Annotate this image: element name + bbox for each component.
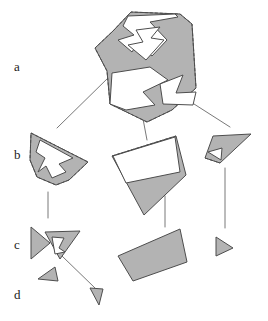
- row-label-c: c: [14, 238, 20, 251]
- level-c-group: [31, 227, 233, 281]
- connector-c-to-d: [62, 256, 95, 288]
- connector-a-to-b-left: [57, 77, 109, 128]
- level-d-sliver-triangle: [90, 288, 103, 305]
- level-b-group: [30, 133, 251, 215]
- row-label-d: d: [14, 288, 21, 301]
- level-a-group: [95, 12, 196, 122]
- row-label-a: a: [14, 60, 20, 73]
- level-b-right-triangle-piece: [205, 134, 251, 163]
- decomposition-figure: [0, 0, 268, 321]
- level-d-group: [90, 288, 103, 305]
- row-label-b: b: [14, 148, 21, 161]
- level-c-middle-quad: [118, 229, 187, 281]
- level-c-left-inner-triangle: [45, 231, 80, 259]
- level-c-right-triangle: [216, 237, 233, 256]
- level-c-left-small-triangle: [38, 267, 58, 281]
